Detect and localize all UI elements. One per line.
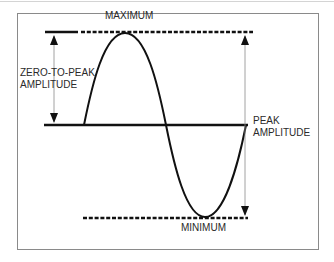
minimum-label: MINIMUM	[181, 222, 226, 234]
arrow-down-icon	[50, 113, 58, 123]
arrow-up-icon	[241, 35, 249, 45]
arrow-up-icon	[50, 35, 58, 45]
peak-amplitude-label: PEAK AMPLITUDE	[253, 115, 310, 139]
zero-to-peak-amplitude-label: ZERO-TO-PEAK AMPLITUDE	[20, 67, 95, 91]
arrow-down-icon	[241, 206, 249, 216]
peak-label-line1: PEAK	[253, 115, 310, 127]
maximum-label: MAXIMUM	[105, 10, 153, 22]
zero-to-peak-label-line1: ZERO-TO-PEAK	[20, 67, 95, 79]
zero-to-peak-label-line2: AMPLITUDE	[20, 79, 95, 91]
peak-label-line2: AMPLITUDE	[253, 127, 310, 139]
